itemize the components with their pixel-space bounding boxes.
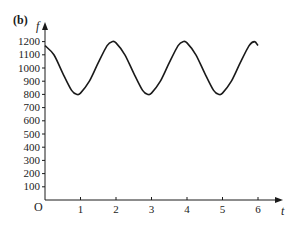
y-tick-label: 800 [24,88,41,100]
y-tick-label: 500 [24,128,41,140]
x-tick-label: 6 [255,203,261,215]
y-axis-label: f [36,19,41,33]
origin-label: O [34,200,43,214]
ticks: 1002003004005006007008009001000110012001… [18,35,261,215]
y-tick-label: 100 [24,180,41,192]
y-tick-label: 200 [24,167,41,179]
y-tick-label: 300 [24,154,41,166]
data-curve [45,41,258,94]
y-tick-label: 600 [24,114,41,126]
x-tick-label: 1 [78,203,84,215]
line-chart: 1002003004005006007008009001000110012001… [0,0,289,225]
x-tick-label: 5 [220,203,226,215]
y-tick-label: 1100 [18,48,40,60]
x-axis-label: t [281,204,285,218]
x-tick-label: 3 [149,203,155,215]
y-tick-label: 900 [24,75,41,87]
y-tick-label: 400 [24,141,41,153]
x-axis-arrow-icon [275,197,283,203]
y-axis-arrow-icon [42,22,48,30]
y-tick-label: 1000 [18,62,41,74]
y-tick-label: 700 [24,101,41,113]
x-tick-label: 4 [184,203,190,215]
y-tick-label: 1200 [18,35,41,47]
x-tick-label: 2 [113,203,119,215]
